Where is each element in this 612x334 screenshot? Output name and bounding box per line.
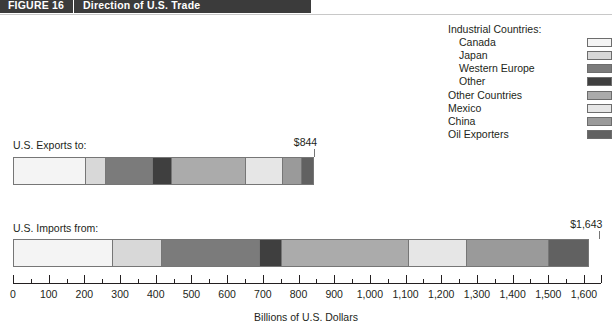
x-axis-major-tick [191, 275, 192, 283]
x-axis-major-tick [334, 275, 335, 283]
x-axis-major-tick [370, 275, 371, 283]
bar-segment [467, 239, 549, 267]
x-axis-tick-label: 100 [40, 288, 58, 300]
x-axis-tick-label: 1,100 [392, 288, 418, 300]
exports-total-value: $844 [294, 136, 317, 148]
x-axis-major-tick [49, 275, 50, 283]
bar-segment [13, 239, 113, 267]
x-axis-major-tick [441, 275, 442, 283]
x-axis-tick-label: 1,000 [357, 288, 383, 300]
x-axis-minor-tick [530, 279, 531, 283]
bar-segment [302, 157, 314, 185]
x-axis-minor-tick [245, 279, 246, 283]
x-axis-minor-tick [566, 279, 567, 283]
x-axis-major-tick [477, 275, 478, 283]
x-axis-tick-label: 300 [111, 288, 129, 300]
x-axis-minor-tick [495, 279, 496, 283]
imports-series-label: U.S. Imports from: [13, 222, 98, 234]
imports-total-tick [599, 231, 600, 239]
x-axis-minor-tick [281, 279, 282, 283]
x-axis-minor-tick [31, 279, 32, 283]
imports-total-value: $1,643 [570, 218, 602, 230]
bar-segment [13, 157, 86, 185]
x-axis-minor-tick [67, 279, 68, 283]
x-axis-tick-labels: 01002003004005006007008009001,0001,1001,… [0, 288, 612, 302]
x-axis-minor-tick [423, 279, 424, 283]
bar-segment [549, 239, 589, 267]
bar-segment [106, 157, 153, 185]
x-axis-tick-label: 1,300 [464, 288, 490, 300]
bar-segment [260, 239, 283, 267]
bar-segment [246, 157, 284, 185]
x-axis-minor-tick [209, 279, 210, 283]
x-axis-minor-tick [174, 279, 175, 283]
x-axis-major-tick [84, 275, 85, 283]
x-axis-tick-label: 600 [218, 288, 236, 300]
x-axis-tick-label: 800 [290, 288, 308, 300]
x-axis-minor-tick [388, 279, 389, 283]
bar-segment [409, 239, 466, 267]
exports-total-tick [314, 149, 315, 157]
x-axis-minor-tick [316, 279, 317, 283]
x-axis-tick-label: 0 [10, 288, 16, 300]
imports-stacked-bar [13, 239, 589, 267]
x-axis-major-tick [263, 275, 264, 283]
x-axis-major-tick [120, 275, 121, 283]
x-axis-tick-label: 1,200 [428, 288, 454, 300]
x-axis-tick-label: 1,600 [571, 288, 597, 300]
x-axis-major-tick [406, 275, 407, 283]
x-axis-minor-tick [102, 279, 103, 283]
exports-series-label: U.S. Exports to: [13, 139, 87, 151]
x-axis-minor-tick [138, 279, 139, 283]
x-axis-major-tick [156, 275, 157, 283]
bar-segment [153, 157, 172, 185]
x-axis-major-tick [227, 275, 228, 283]
x-axis-major-tick [299, 275, 300, 283]
x-axis-major-tick [548, 275, 549, 283]
x-axis-ticks [0, 275, 612, 284]
x-axis-tick-label: 500 [183, 288, 201, 300]
bar-segment [86, 157, 106, 185]
x-axis-minor-tick [352, 279, 353, 283]
exports-stacked-bar [13, 157, 314, 185]
x-axis-tick-label: 1,400 [499, 288, 525, 300]
bar-segment [162, 239, 260, 267]
x-axis-tick-label: 900 [325, 288, 343, 300]
x-axis-major-tick [584, 275, 585, 283]
x-axis-tick-label: 200 [76, 288, 94, 300]
x-axis-major-tick [13, 275, 14, 283]
x-axis-tick-label: 1,500 [535, 288, 561, 300]
bar-segment [172, 157, 246, 185]
x-axis-tick-label: 400 [147, 288, 165, 300]
x-axis-title: Billions of U.S. Dollars [0, 311, 612, 323]
x-axis-major-tick [513, 275, 514, 283]
bar-segment [113, 239, 162, 267]
bar-segment [283, 157, 302, 185]
bar-segment [282, 239, 409, 267]
x-axis-minor-tick [459, 279, 460, 283]
x-axis-tick-label: 700 [254, 288, 272, 300]
chart-plot-area: U.S. Exports to: $844 U.S. Imports from:… [0, 0, 612, 334]
